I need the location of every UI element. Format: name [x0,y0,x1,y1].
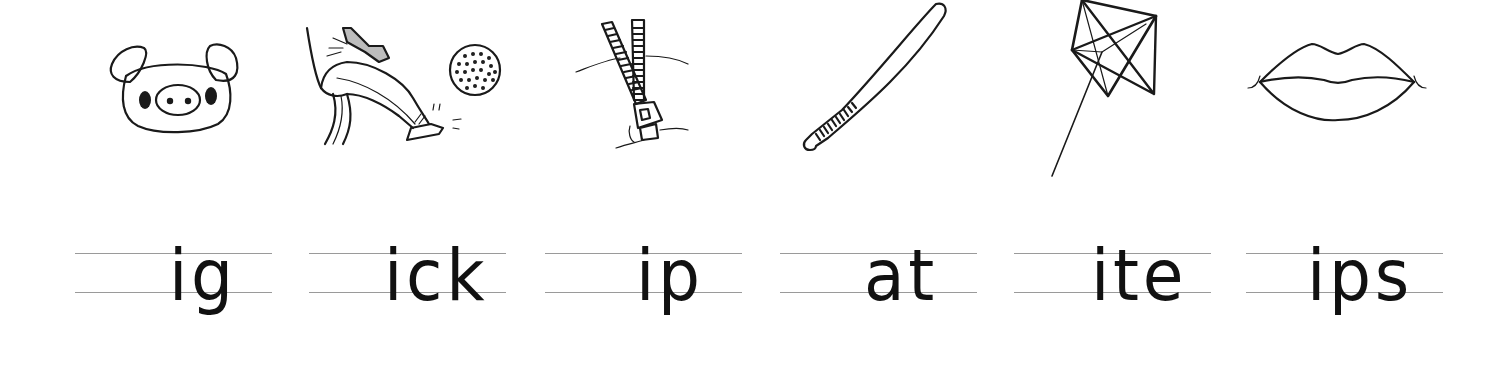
zipper-icon [572,16,698,158]
kicking-ball-icon [303,24,508,146]
pig-icon [108,38,242,136]
writing-slot-ite: ite [1014,200,1211,350]
lips-icon [1246,40,1432,126]
writing-slot-at: at [780,200,977,350]
baseball-bat-icon [798,2,950,154]
writing-slot-ip: ip [545,200,742,350]
kite-icon [1046,0,1158,178]
writing-slot-ig: ig [75,200,272,350]
writing-slot-ick: ick [309,200,506,350]
writing-slot-ips: ips [1246,200,1443,350]
